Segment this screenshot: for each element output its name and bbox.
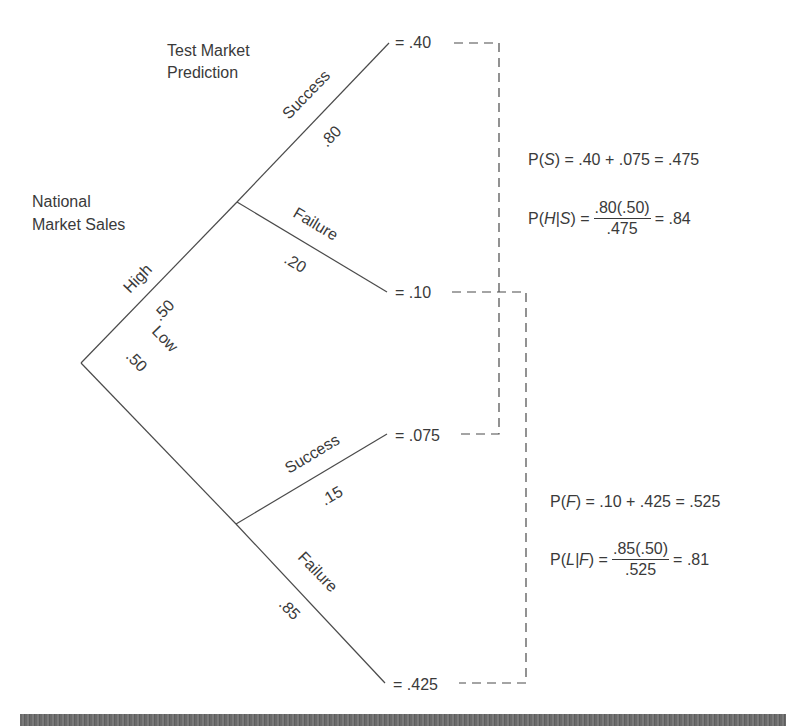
bracket-success-line (454, 43, 499, 434)
outcome-high-failure: = .10 (395, 284, 431, 301)
formula-ps-var: S (544, 151, 555, 169)
formula-p-low-given-failure: P(L|F) = .85(.50) .525 = .81 (550, 540, 709, 579)
formula-p-failure: P(F) = .10 + .425 = .525 (550, 493, 720, 511)
prob-low: .50 (123, 347, 151, 375)
prob-high-failure: .20 (281, 250, 309, 276)
branch-high-success (237, 43, 389, 202)
formula-pf-var: F (566, 493, 576, 511)
formula-pf-rhs: = .10 + .425 = .525 (581, 493, 720, 511)
bracket-failure (452, 292, 526, 683)
branch-low-failure (236, 524, 385, 683)
formula-pf-p: P( (550, 493, 566, 511)
formula-plf-numerator: .85(.50) (612, 540, 669, 560)
formula-plf-fraction: .85(.50) .525 (612, 540, 669, 579)
formula-plf-result: = .81 (673, 551, 709, 569)
branch-low (81, 363, 236, 524)
formula-plf-p: P( (550, 551, 566, 569)
label-high-failure: Failure (290, 204, 341, 244)
outcome-low-failure: = .425 (393, 676, 438, 693)
formula-plf-denominator: .525 (625, 560, 656, 579)
heading-test-market-line2: Prediction (167, 64, 238, 81)
bracket-failure-line (452, 292, 526, 683)
formula-phs-result: = .84 (655, 210, 691, 228)
footer-bar (20, 714, 786, 726)
formula-p-success: P(S) = .40 + .075 = .475 (528, 151, 699, 169)
formula-phs-numerator: .80(.50) (594, 199, 651, 219)
outcome-low-success: = .075 (395, 427, 440, 444)
formula-ps-p: P( (528, 151, 544, 169)
formula-plf-eq: = (594, 551, 608, 569)
prob-high: .50 (150, 296, 178, 324)
formula-phs-denominator: .475 (607, 219, 638, 238)
formula-phs-var: H|S (544, 210, 570, 228)
heading-national-line2: Market Sales (32, 216, 125, 233)
formula-phs-p: P( (528, 210, 544, 228)
heading-test-market-line1: Test Market (167, 42, 250, 59)
label-low-success: Success (282, 431, 343, 477)
label-low: Low (149, 322, 182, 355)
prob-high-success: .80 (317, 122, 345, 150)
probability-tree-diagram: Test Market Prediction National Market S… (0, 0, 806, 726)
formula-ps-rhs: = .40 + .075 = .475 (560, 151, 699, 169)
heading-national-line1: National (32, 193, 91, 210)
label-high-success: Success (279, 67, 333, 122)
prob-low-success: .15 (318, 482, 346, 508)
outcome-high-success: = .40 (395, 34, 431, 51)
formula-plf-var: L|F (566, 551, 589, 569)
formula-phs-eq: = (576, 210, 590, 228)
label-high: High (120, 261, 155, 296)
label-low-failure: Failure (295, 548, 341, 595)
bracket-success (454, 43, 499, 434)
formula-p-high-given-success: P(H|S) = .80(.50) .475 = .84 (528, 199, 691, 238)
prob-low-failure: .85 (276, 595, 304, 623)
formula-phs-fraction: .80(.50) .475 (594, 199, 651, 238)
